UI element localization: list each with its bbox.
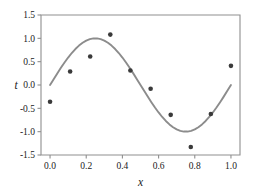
data-point [68, 69, 73, 74]
y-tick-label-5: 1.0 [23, 34, 35, 44]
chart-figure: 0.00.20.40.60.81.0 -1.5-1.0-0.50.00.51.0… [0, 0, 254, 193]
data-point [148, 86, 153, 91]
data-point [209, 112, 214, 117]
x-tick-label-5: 1.0 [225, 161, 237, 171]
data-point [168, 113, 173, 118]
y-tick-label-2: -0.5 [20, 104, 35, 114]
data-point [128, 68, 133, 73]
x-tick-label-0: 0.0 [44, 161, 56, 171]
data-point [188, 145, 193, 150]
x-tick-label-1: 0.2 [80, 161, 92, 171]
y-tick-label-0: -1.5 [20, 150, 35, 160]
x-axis-title: x [137, 176, 144, 188]
x-tick-label-4: 0.8 [189, 161, 201, 171]
y-tick-label-4: 0.5 [23, 57, 35, 67]
y-tick-label-3: 0.0 [23, 80, 35, 90]
x-tick-label-3: 0.6 [153, 161, 165, 171]
y-tick-label-6: 1.5 [23, 10, 35, 20]
sine-scatter-plot: 0.00.20.40.60.81.0 -1.5-1.0-0.50.00.51.0… [0, 0, 254, 193]
data-point [88, 54, 93, 59]
x-tick-label-2: 0.4 [116, 161, 128, 171]
data-point [229, 64, 234, 69]
y-tick-label-1: -1.0 [20, 127, 35, 137]
data-point [48, 100, 53, 105]
data-point [108, 32, 113, 37]
